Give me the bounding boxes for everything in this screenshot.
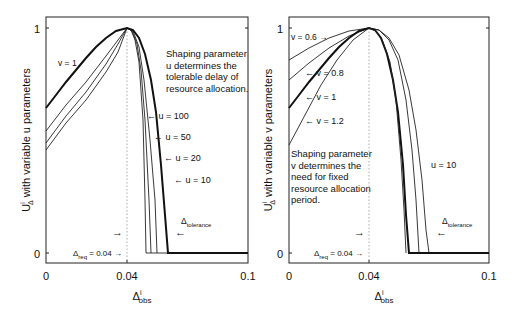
left-ytick-1-label: 1 — [34, 23, 40, 35]
right-ytick-0-label: 0 — [277, 248, 283, 260]
left-u10-label: ← u = 10 — [174, 175, 211, 185]
left-xtick-0-label: 0 — [43, 270, 49, 282]
left-u50-label: ← u = 50 — [154, 132, 191, 142]
right-v1-label: ← v = 1 — [305, 92, 336, 102]
right-xtick-01-label: 0.1 — [481, 270, 496, 282]
left-ylabel: UiΔ with variable u parameters — [19, 68, 34, 212]
right-ytick-1-label: 1 — [277, 23, 283, 35]
right-note-line2: v determines the — [291, 160, 361, 171]
right-curve-v1 — [289, 28, 489, 253]
left-chart: 1 0 0 0.04 0.1 Δiobs UiΔ with variable u… — [19, 17, 256, 305]
right-xlabel: Δiobs — [375, 289, 394, 305]
left-note-line1: Shaping parameter — [166, 48, 247, 59]
right-chart: 1 0 0 0.04 0.1 Δiobs UiΔ with variable v… — [261, 17, 497, 305]
right-v08-label: ← v = 0.8 — [305, 68, 344, 78]
right-ylabel: UiΔ with variable v parameters — [261, 68, 276, 211]
figure: 1 0 0 0.04 0.1 Δiobs UiΔ with variable u… — [0, 0, 514, 311]
right-delta-req: Δreq = 0.04 → — [314, 249, 363, 260]
right-note-line1: Shaping parameter — [291, 148, 372, 159]
right-xtick-0-label: 0 — [286, 270, 292, 282]
right-note-line4: resource allocation — [291, 183, 371, 194]
left-arrow-left: ← — [175, 226, 186, 238]
left-ytick-0-label: 0 — [34, 248, 40, 260]
left-xtick-004-label: 0.04 — [116, 270, 137, 282]
left-v-label: v = 1 — [58, 58, 77, 68]
right-v06-label: v = 0.6 → — [291, 32, 328, 42]
left-note-line4: resource allocation. — [166, 83, 248, 94]
left-xtick-01-label: 0.1 — [240, 270, 255, 282]
left-note-line3: tolerable delay of — [166, 71, 239, 82]
left-delta-req: Δreq = 0.04 → — [73, 249, 122, 260]
right-v12-label: ← v = 1.2 — [305, 116, 344, 126]
right-u10-label: u = 10 — [431, 160, 456, 170]
left-u100-label: ← u = 100 — [147, 111, 189, 121]
right-note-line3: need for fixed — [291, 171, 349, 182]
right-arrow-right: → — [354, 226, 365, 238]
left-xlabel: Δiobs — [133, 289, 152, 305]
left-u20-label: ← u = 20 — [164, 153, 201, 163]
left-arrow-right: → — [112, 226, 123, 238]
right-arrow-left: ← — [436, 226, 447, 238]
left-note-line2: u determines the — [166, 60, 237, 71]
right-note-line5: period. — [291, 194, 320, 205]
right-xtick-004-label: 0.04 — [358, 270, 379, 282]
